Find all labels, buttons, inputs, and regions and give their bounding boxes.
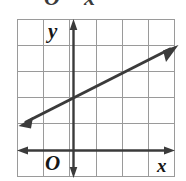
graph-canvas xyxy=(0,0,186,181)
y-axis-label: y xyxy=(48,21,57,42)
coordinate-plane-figure: O x xyxy=(0,0,186,181)
x-axis-label: x xyxy=(157,156,167,175)
origin-label: O xyxy=(45,153,60,174)
